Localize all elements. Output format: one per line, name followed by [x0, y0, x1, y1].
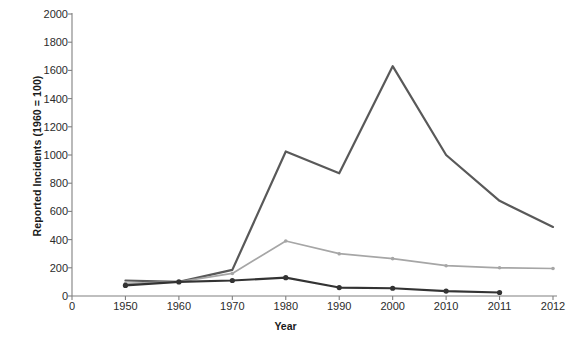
data-point-series-black-lower [230, 278, 235, 283]
data-point-series-black-lower [497, 290, 502, 295]
data-point-series-black-lower [337, 285, 342, 290]
data-point-series-black-lower [283, 275, 288, 280]
line-chart: Reported Incidents (1960 = 100) 02004006… [0, 0, 571, 344]
data-point-series-black-lower [390, 286, 395, 291]
data-point-series-light-gray-middle [337, 252, 341, 256]
plot-area [0, 0, 571, 344]
data-point-series-black-lower [444, 288, 449, 293]
data-point-series-light-gray-middle [551, 267, 555, 271]
series-line-series-dark-gray-upper [125, 66, 553, 282]
data-point-series-light-gray-middle [284, 239, 288, 243]
series-line-series-black-lower [125, 278, 499, 293]
data-point-series-light-gray-middle [444, 264, 448, 268]
data-point-series-black-lower [123, 283, 128, 288]
data-point-series-light-gray-middle [391, 257, 395, 261]
data-point-series-light-gray-middle [498, 266, 502, 270]
data-point-series-black-lower [176, 279, 181, 284]
series-line-series-light-gray-middle [125, 241, 553, 283]
data-point-series-light-gray-middle [231, 272, 235, 276]
